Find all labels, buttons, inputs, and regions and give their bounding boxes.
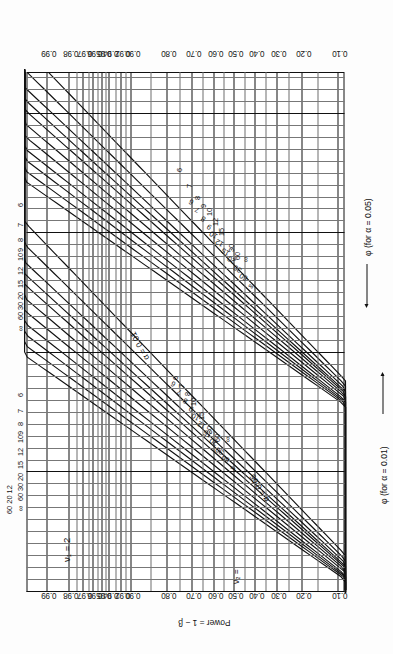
y-tick-label-left: 0.10	[332, 591, 347, 600]
grid-line-vertical-minor	[26, 149, 344, 150]
grid-line-vertical-minor	[26, 256, 344, 257]
grid-line-horizontal-minor	[150, 72, 151, 592]
y-tick-label-right: 0.30	[271, 49, 286, 58]
curve-label-top2-6: 6	[15, 203, 24, 207]
curve-label-top2-inf: ∞	[15, 326, 24, 331]
grid-line-horizontal	[68, 72, 69, 592]
grid-line-vertical-minor	[26, 77, 344, 78]
grid-line-vertical-minor	[26, 208, 344, 209]
y-tick-label-left: 0.98	[63, 591, 78, 600]
curve-label-top-30: 30	[15, 483, 24, 491]
grid-line-vertical-minor	[26, 161, 344, 162]
curve-label-top2-12: 12	[15, 267, 24, 275]
grid-line-vertical-minor	[26, 244, 344, 245]
y-tick-label-right: 0.50	[228, 49, 243, 58]
curve-label-inner01-7: 7	[184, 184, 193, 188]
curve-label-top-7: 7	[15, 409, 24, 413]
grid-line-horizontal	[166, 72, 167, 592]
grid-line-vertical-minor	[26, 436, 344, 437]
grid-line-vertical-minor	[26, 220, 344, 221]
curve-label-inner05-inf: ∞	[222, 437, 231, 442]
grid-line-vertical-minor	[26, 424, 344, 425]
grid-line-vertical-minor	[26, 328, 344, 329]
grid-line-vertical-minor	[26, 89, 344, 90]
y-tick-label-left: 0.60	[208, 591, 223, 600]
curve-label-top2-7: 7	[15, 223, 24, 227]
y-tick-label-left: 0.30	[271, 591, 286, 600]
grid-line-horizontal-minor	[97, 72, 98, 592]
grid-line-vertical-major	[26, 232, 344, 233]
y-tick-label-left: 0.80	[161, 591, 176, 600]
grid-line-vertical-minor	[26, 137, 344, 138]
grid-line-horizontal-minor	[115, 72, 116, 592]
nu1-label: ν₁ = 2	[60, 538, 71, 562]
grid-line-horizontal-minor	[105, 72, 106, 592]
grid-line-horizontal	[46, 72, 47, 592]
rotated-chart-canvas: 0.990.980.970.960.950.940.920.900.800.70…	[0, 0, 393, 654]
grid-line-horizontal-minor	[125, 72, 126, 592]
curve-label-top-9: 9	[15, 431, 24, 435]
grid-line-horizontal	[337, 72, 338, 592]
chart-page: 0.990.980.970.960.950.940.920.900.800.70…	[0, 0, 393, 654]
grid-line-vertical-minor	[26, 543, 344, 544]
grid-line-horizontal-minor	[76, 72, 77, 592]
x-axis-arrowhead-01	[380, 372, 384, 376]
y-tick-label-left: 0.70	[186, 591, 201, 600]
grid-line-horizontal	[120, 72, 121, 592]
grid-line-horizontal	[191, 72, 192, 592]
grid-line-horizontal	[276, 72, 277, 592]
grid-line-horizontal	[82, 72, 83, 592]
grid-line-horizontal	[233, 72, 234, 592]
x-axis-arrow-05	[366, 264, 367, 304]
grid-line-vertical-minor	[26, 412, 344, 413]
grid-line-horizontal-minor	[223, 72, 224, 592]
grid-line-horizontal-minor	[317, 72, 318, 592]
grid-line-vertical-minor	[26, 125, 344, 126]
curve-label-top2-60: 60	[15, 312, 24, 320]
grid-line-horizontal	[254, 72, 255, 592]
curve-label-top2-9: 9	[15, 248, 24, 252]
grid-line-vertical-major	[26, 471, 344, 472]
grid-line-horizontal	[92, 72, 93, 592]
curve-label-inner01-6: 6	[174, 168, 183, 172]
grid-line-vertical-minor	[26, 579, 344, 580]
y-tick-label-right: 0.90	[125, 49, 140, 58]
grid-line-vertical-minor	[26, 448, 344, 449]
y-tick-label-right: 0.80	[161, 49, 176, 58]
grid-line-vertical-minor	[26, 555, 344, 556]
curve-label-top-6: 6	[15, 393, 24, 397]
y-tick-label-left: 0.99	[41, 591, 56, 600]
grid-line-vertical-minor	[26, 460, 344, 461]
grid-line-vertical-minor	[26, 268, 344, 269]
grid-line-vertical-minor	[26, 376, 344, 377]
x-axis-arrowhead-05	[364, 304, 368, 308]
plot-frame	[26, 72, 344, 592]
grid-line-vertical-minor	[26, 567, 344, 568]
grid-line-horizontal	[213, 72, 214, 592]
curve-label-top2-30: 30	[15, 302, 24, 310]
grid-line-horizontal-minor	[244, 72, 245, 592]
grid-line-vertical-minor	[26, 280, 344, 281]
grid-line-horizontal-minor	[179, 72, 180, 592]
y-tick-label-left: 0.40	[249, 591, 264, 600]
curve-label-top-12: 12	[15, 448, 24, 456]
curve-label-top2-10: 10	[15, 253, 24, 261]
nu2-label: ν₂ =	[230, 569, 240, 584]
curve-label-top-20: 20	[15, 473, 24, 481]
y-tick-label-left: 0.50	[228, 591, 243, 600]
curve-label-top2-15: 15	[15, 280, 24, 288]
grid-line-vertical-minor	[26, 364, 344, 365]
grid-line-horizontal-minor	[88, 72, 89, 592]
grid-line-horizontal-minor	[202, 72, 203, 592]
grid-line-horizontal	[101, 72, 102, 592]
grid-line-vertical-minor	[26, 531, 344, 532]
grid-line-vertical-minor	[26, 483, 344, 484]
y-axis-title-power: Power = 1 − β	[178, 618, 230, 628]
curve-label-inner05-8: 8	[182, 392, 191, 396]
grid-line-horizontal	[108, 72, 109, 592]
grid-line-vertical-minor	[26, 340, 344, 341]
y-tick-label-right: 0.40	[249, 49, 264, 58]
y-tick-label-right: 0.10	[332, 49, 347, 58]
grid-line-vertical-minor	[26, 101, 344, 102]
grid-line-vertical-minor	[26, 173, 344, 174]
